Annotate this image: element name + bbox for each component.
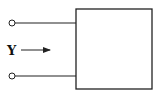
admittance-label: Y	[6, 43, 17, 58]
bottom-terminal-icon	[9, 73, 15, 79]
top-terminal-icon	[9, 20, 15, 26]
network-box	[76, 9, 152, 89]
network-diagram: Y	[0, 0, 161, 92]
diagram-svg: Y	[0, 0, 161, 92]
